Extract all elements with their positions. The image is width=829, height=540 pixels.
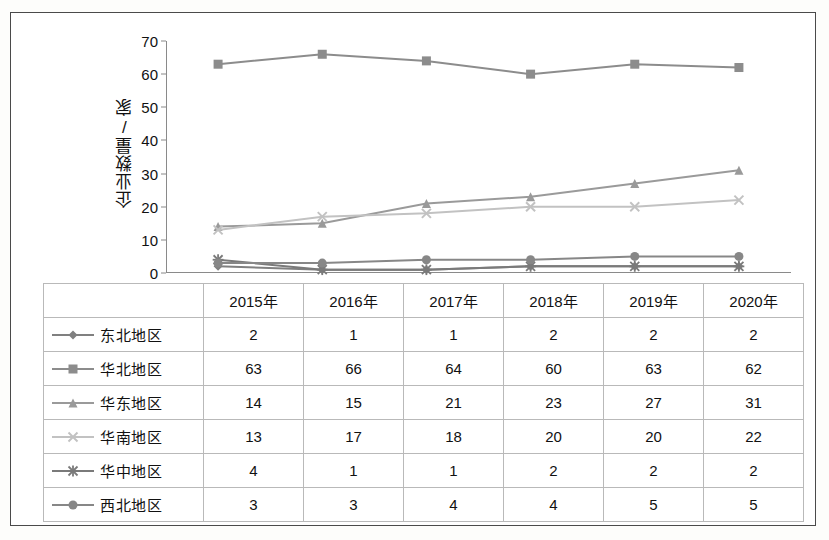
table-cell: 31 (704, 386, 804, 420)
table-cell: 5 (704, 488, 804, 522)
legend-series-name: 西北地区 (100, 494, 162, 515)
legend-series-name: 东北地区 (100, 324, 162, 345)
legend-series-name: 华北地区 (100, 358, 162, 379)
table-cell: 20 (504, 420, 604, 454)
table-cell: 20 (604, 420, 704, 454)
legend-row-label: 华北地区 (44, 352, 204, 386)
table-cell: 66 (304, 352, 404, 386)
table-cell: 4 (504, 488, 604, 522)
table-cell: 63 (604, 352, 704, 386)
y-axis-tick-label: 50 (141, 99, 158, 116)
table-column-header: 2018年 (504, 284, 604, 318)
legend-series-name: 华南地区 (100, 426, 162, 447)
table-cell: 3 (304, 488, 404, 522)
y-axis-tick-label: 0 (150, 265, 158, 282)
table-cell: 60 (504, 352, 604, 386)
table-cell: 64 (404, 352, 504, 386)
y-axis-title: 企业数量/家 (115, 73, 137, 233)
table-column-header: 2016年 (304, 284, 404, 318)
legend-marker-diamond-icon (50, 328, 96, 342)
table-cell: 2 (704, 454, 804, 488)
legend-marker-triangle-icon (50, 396, 96, 410)
table-cell: 4 (204, 454, 304, 488)
table-cell: 2 (504, 454, 604, 488)
table-column-header: 2017年 (404, 284, 504, 318)
table-cell: 1 (304, 318, 404, 352)
chart-frame: 企业数量/家 010203040506070 2015年2016年2017年20… (10, 12, 816, 526)
series-华北地区 (214, 50, 744, 79)
table-corner-cell (44, 284, 204, 318)
table-cell: 18 (404, 420, 504, 454)
legend-series-name: 华东地区 (100, 392, 162, 413)
table-cell: 1 (404, 454, 504, 488)
table-cell: 2 (204, 318, 304, 352)
table-row: 华中地区411222 (44, 454, 804, 488)
table-cell: 5 (604, 488, 704, 522)
plot-area: 010203040506070 (166, 41, 791, 273)
series-layer (166, 41, 791, 273)
table-row: 华北地区636664606362 (44, 352, 804, 386)
table-row: 西北地区334455 (44, 488, 804, 522)
table-cell: 17 (304, 420, 404, 454)
line-chart: 企业数量/家 010203040506070 (11, 13, 817, 283)
y-axis-tick-label: 70 (141, 33, 158, 50)
legend-marker-x-icon (50, 430, 96, 444)
table-row: 华东地区141521232731 (44, 386, 804, 420)
table-cell: 2 (604, 454, 704, 488)
table-cell: 13 (204, 420, 304, 454)
series-华南地区 (214, 196, 744, 235)
y-axis-tick-label: 20 (141, 198, 158, 215)
table-cell: 22 (704, 420, 804, 454)
table-cell: 1 (404, 318, 504, 352)
table-cell: 62 (704, 352, 804, 386)
table-cell: 21 (404, 386, 504, 420)
table-column-header: 2019年 (604, 284, 704, 318)
legend-row-label: 华南地区 (44, 420, 204, 454)
y-axis-tick-label: 60 (141, 66, 158, 83)
y-axis-tick-label: 30 (141, 165, 158, 182)
table-cell: 23 (504, 386, 604, 420)
table-cell: 14 (204, 386, 304, 420)
table-column-header: 2020年 (704, 284, 804, 318)
table-cell: 3 (204, 488, 304, 522)
series-西北地区 (214, 252, 744, 268)
table-cell: 2 (504, 318, 604, 352)
legend-row-label: 东北地区 (44, 318, 204, 352)
y-axis-tick-label: 40 (141, 132, 158, 149)
table-cell: 27 (604, 386, 704, 420)
table-column-header: 2015年 (204, 284, 304, 318)
legend-row-label: 华中地区 (44, 454, 204, 488)
y-axis-tick-label: 10 (141, 231, 158, 248)
chart-page: 企业数量/家 010203040506070 2015年2016年2017年20… (0, 0, 829, 540)
table-row: 华南地区131718202022 (44, 420, 804, 454)
table-cell: 2 (704, 318, 804, 352)
table-cell: 4 (404, 488, 504, 522)
table-row: 东北地区211222 (44, 318, 804, 352)
table-header-row: 2015年2016年2017年2018年2019年2020年 (44, 284, 804, 318)
series-华中地区 (213, 254, 745, 275)
legend-marker-circle-icon (50, 498, 96, 512)
legend-marker-star-icon (50, 464, 96, 478)
table-cell: 15 (304, 386, 404, 420)
table-cell: 63 (204, 352, 304, 386)
legend-row-label: 华东地区 (44, 386, 204, 420)
table-cell: 1 (304, 454, 404, 488)
legend-row-label: 西北地区 (44, 488, 204, 522)
legend-series-name: 华中地区 (100, 460, 162, 481)
legend-marker-square-icon (50, 362, 96, 376)
legend-data-table: 2015年2016年2017年2018年2019年2020年东北地区211222… (43, 283, 803, 522)
table-cell: 2 (604, 318, 704, 352)
